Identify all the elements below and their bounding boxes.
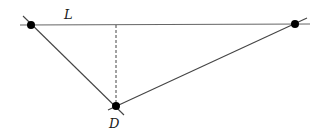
point-left: [27, 21, 35, 29]
triangle-diagram: L D: [0, 0, 326, 136]
line-l: [20, 24, 310, 25]
edge-bottom-right: [108, 18, 307, 110]
edge-left-bottom: [23, 16, 124, 115]
label-l: L: [63, 7, 73, 22]
label-d: D: [108, 116, 120, 131]
point-d: [112, 102, 120, 110]
point-right: [291, 20, 299, 28]
